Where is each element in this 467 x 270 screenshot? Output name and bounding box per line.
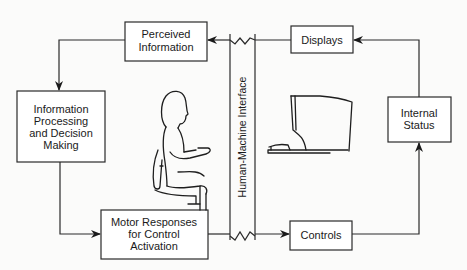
- edge-controls-to-internal: [352, 143, 419, 234]
- svg-text:Internal: Internal: [401, 107, 438, 119]
- svg-text:Processing: Processing: [34, 115, 88, 127]
- svg-text:Perceived: Perceived: [142, 28, 191, 40]
- svg-text:Information: Information: [33, 103, 88, 115]
- node-displays: Displays: [291, 26, 353, 53]
- node-controls: Controls: [290, 221, 352, 250]
- svg-text:Status: Status: [403, 119, 435, 131]
- node-perceived-information: Perceived Information: [125, 22, 207, 61]
- edge-processing-to-motor: [60, 162, 100, 234]
- seated-person-icon: [153, 91, 210, 210]
- svg-text:Displays: Displays: [301, 34, 343, 46]
- svg-text:Motor Responses: Motor Responses: [111, 216, 198, 228]
- node-information-processing: Information Processing and Decision Maki…: [17, 91, 105, 162]
- hmi-diagram: Human-Machine Interface Perceived Inform…: [0, 0, 467, 270]
- interface-label: Human-Machine Interface: [236, 76, 248, 197]
- node-internal-status: Internal Status: [388, 97, 451, 142]
- svg-text:and Decision: and Decision: [29, 127, 93, 139]
- svg-text:Making: Making: [43, 139, 78, 151]
- computer-workstation-icon: [268, 96, 352, 153]
- edge-internal-to-displays: [354, 40, 419, 97]
- node-motor-responses: Motor Responses for Control Activation: [101, 210, 208, 259]
- svg-text:for Control: for Control: [128, 228, 179, 240]
- svg-text:Activation: Activation: [130, 240, 178, 252]
- edge-perceived-to-processing: [59, 40, 125, 90]
- svg-text:Controls: Controls: [301, 229, 342, 241]
- svg-text:Information: Information: [138, 41, 193, 53]
- interface-band: Human-Machine Interface: [230, 34, 255, 240]
